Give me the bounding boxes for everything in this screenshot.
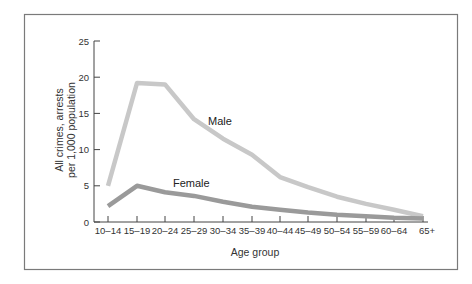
y-axis-title-line-2: per 1,000 population	[65, 82, 77, 178]
x-tick-label: 65+	[419, 225, 436, 236]
y-tick-label: 15	[78, 108, 89, 119]
y-tick-label: 0	[84, 217, 89, 228]
series-label-female: Female	[173, 177, 210, 189]
x-tick-label: 40–44	[267, 225, 293, 236]
x-tick-label: 60–64	[381, 225, 407, 236]
x-tick-label: 55–59	[353, 225, 379, 236]
x-tick-label: 25–29	[181, 225, 207, 236]
y-tick-label: 25	[78, 36, 89, 47]
x-tick-label: 20–24	[152, 225, 178, 236]
x-axis-title: Age group	[231, 246, 280, 258]
x-tick-label: 45–49	[295, 225, 321, 236]
x-tick-label: 10–14	[95, 225, 121, 236]
x-tick-label: 30–34	[210, 225, 236, 236]
x-tick-label: 50–54	[324, 225, 350, 236]
line-chart: 0510152025 10–1415–1920–2425–2930–3435–3…	[0, 0, 472, 284]
y-axis-title-line-1: All crimes, arrests	[53, 88, 65, 171]
y-tick-label: 20	[78, 72, 89, 83]
x-tick-label: 15–19	[124, 225, 150, 236]
series-label-male: Male	[208, 115, 232, 127]
y-axis-title: All crimes, arrests per 1,000 population	[53, 82, 77, 178]
y-tick-label: 5	[84, 180, 89, 191]
y-tick-label: 10	[78, 144, 89, 155]
x-tick-label: 35–39	[239, 225, 265, 236]
